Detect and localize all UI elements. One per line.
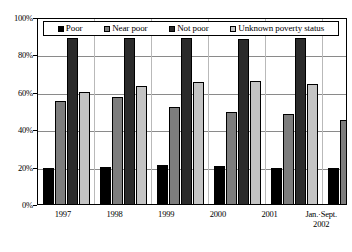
y-tick-label: 20% (18, 164, 33, 173)
bar-group-1999 (152, 19, 209, 204)
bar-chart: 100%80%60%40%20%0% PoorNear poorNot poor… (0, 0, 352, 252)
x-tick-label-line: 2001 (244, 209, 296, 219)
y-tick-label: 40% (18, 126, 33, 135)
y-tick-label: 80% (18, 51, 33, 60)
legend-entry-unknown-poverty-status[interactable]: Unknown poverty status (230, 24, 324, 33)
y-tick-label: 0% (22, 201, 33, 210)
bar-poor-2001 (271, 168, 282, 204)
bar-poor-1999 (157, 165, 168, 204)
legend-swatch-icon (169, 26, 175, 32)
bar-near-poor-1999 (169, 107, 180, 204)
x-tick-label-2000: 2000 (192, 207, 244, 249)
x-tick-label-line: 1997 (37, 209, 89, 219)
legend-entry-near-poor[interactable]: Near poor (104, 24, 147, 33)
x-tick-label-line: Jan.·Sept. (295, 209, 347, 219)
x-axis: 19971998199920002001Jan.·Sept.2002 (37, 207, 347, 249)
bar-unknown-poverty-status-1997 (79, 92, 90, 204)
bar-poor-2000 (214, 166, 225, 204)
x-tick-label-line: 2002 (295, 219, 347, 229)
chart-legend: PoorNear poorNot poorUnknown poverty sta… (43, 21, 339, 36)
x-tick-label-1997: 1997 (37, 207, 89, 249)
bar-not-poor-2001 (295, 38, 306, 204)
bar-not-poor-2000 (238, 39, 249, 204)
bar-poor-1998 (100, 167, 111, 204)
legend-swatch-icon (58, 26, 64, 32)
bar-near-poor-1998 (112, 97, 123, 204)
bar-not-poor-1997 (67, 38, 78, 204)
x-tick-label-1999: 1999 (140, 207, 192, 249)
bar-group-1998 (95, 19, 152, 204)
x-tick-label-1998: 1998 (89, 207, 141, 249)
legend-label: Poor (66, 24, 83, 33)
y-tick-mark (33, 205, 37, 206)
legend-swatch-icon (230, 26, 236, 32)
bar-unknown-poverty-status-1999 (193, 82, 204, 204)
bar-not-poor-1998 (124, 38, 135, 204)
legend-entry-not-poor[interactable]: Not poor (169, 24, 208, 33)
bar-group-2000 (209, 19, 266, 204)
bar-near-poor-1997 (55, 101, 66, 204)
bar-poor-1997 (43, 168, 54, 204)
legend-label: Unknown poverty status (238, 24, 324, 33)
bar-near-poor-jan-sept-2002 (340, 120, 348, 204)
bar-unknown-poverty-status-1998 (136, 86, 147, 204)
x-tick-label-line: 2000 (192, 209, 244, 219)
plot-area (37, 18, 347, 205)
bar-unknown-poverty-status-2000 (250, 81, 261, 204)
x-tick-label-line: 1999 (140, 209, 192, 219)
bar-group-2001 (266, 19, 323, 204)
legend-swatch-icon (104, 26, 110, 32)
bar-groups (38, 19, 346, 204)
x-tick-label-jan-sept-2002: Jan.·Sept.2002 (295, 207, 347, 249)
bar-not-poor-1999 (181, 38, 192, 204)
y-tick-label: 60% (18, 89, 33, 98)
bar-near-poor-2001 (283, 114, 294, 204)
bar-near-poor-2000 (226, 112, 237, 204)
x-tick-label-line: 1998 (89, 209, 141, 219)
legend-label: Near poor (112, 24, 147, 33)
y-axis: 100%80%60%40%20%0% (0, 0, 36, 252)
bar-poor-jan-sept-2002 (328, 168, 339, 204)
bar-group-1997 (38, 19, 95, 204)
legend-label: Not poor (177, 24, 208, 33)
x-tick-label-2001: 2001 (244, 207, 296, 249)
bar-unknown-poverty-status-2001 (307, 84, 318, 204)
legend-entry-poor[interactable]: Poor (58, 24, 83, 33)
bar-group-jan-sept-2002 (323, 19, 347, 204)
y-tick-label: 100% (14, 14, 33, 23)
